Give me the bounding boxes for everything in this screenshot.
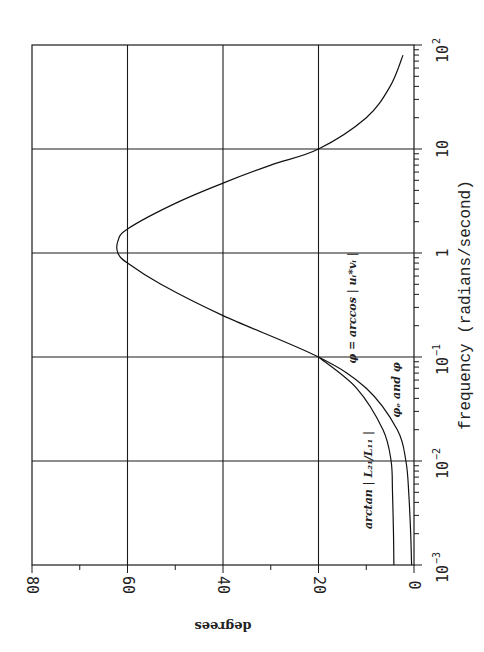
svg-text:−2: −2 (431, 448, 442, 460)
degree-tick-label: 0 (405, 580, 423, 589)
frequency-tick-labels: 10−310−210−1110102 (431, 38, 452, 583)
x-axis-title: frequency (radians/second) (457, 180, 475, 430)
degree-tick-label: 60 (119, 576, 137, 594)
frequency-tick-label: 1 (434, 248, 452, 257)
svg-text:10: 10 (434, 565, 452, 583)
annotation-phi-arccos: φ = arccos | uᵢ*vᵢ | (346, 252, 359, 364)
svg-text:10: 10 (434, 140, 452, 158)
svg-text:2: 2 (431, 38, 442, 44)
frequency-tick-label: 10−1 (431, 344, 452, 375)
degree-tick-label: 80 (23, 576, 41, 594)
frequency-tick-label: 102 (431, 38, 452, 63)
annotation-arctan: arctan | L₂₁/L₁₁ | (362, 431, 375, 529)
degree-tick-labels: 020406080 (23, 576, 423, 594)
svg-text:10: 10 (434, 45, 452, 63)
y-axis-title: degrees (194, 619, 251, 634)
frequency-tick-label: 10−3 (431, 552, 452, 583)
svg-text:−1: −1 (431, 344, 442, 356)
svg-text:10: 10 (434, 461, 452, 479)
svg-text:−3: −3 (431, 552, 442, 564)
degree-tick-label: 20 (310, 576, 328, 594)
annotation-phie-and-phi: φₑ and φ (390, 362, 403, 417)
degree-tick-label: 40 (214, 576, 232, 594)
svg-text:10: 10 (434, 357, 452, 375)
frequency-tick-label: 10 (434, 140, 452, 158)
svg-text:1: 1 (434, 248, 452, 257)
frequency-tick-label: 10−2 (431, 448, 452, 479)
phase-angle-chart: 020406080 10−310−210−1110102 degrees fre… (0, 0, 484, 652)
